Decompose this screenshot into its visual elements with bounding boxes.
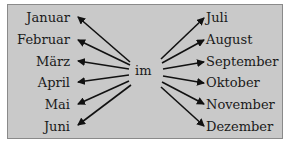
month-april: April: [8, 75, 70, 91]
arrow-februar: [78, 40, 130, 65]
month-august: August: [206, 32, 252, 48]
arrow-oktober: [163, 76, 204, 83]
arrow-juni: [78, 85, 131, 125]
month-maerz: März: [8, 54, 70, 70]
arrow-maerz: [78, 61, 129, 69]
month-september: September: [206, 54, 278, 70]
month-november: November: [206, 97, 275, 113]
arrow-april: [78, 75, 129, 82]
month-juli: Juli: [206, 10, 228, 26]
month-oktober: Oktober: [206, 75, 260, 91]
month-februar: Februar: [8, 32, 70, 48]
month-juni: Juni: [8, 119, 70, 135]
month-mai: Mai: [8, 97, 70, 113]
month-dezember: Dezember: [206, 119, 273, 135]
month-januar: Januar: [8, 10, 70, 26]
arrow-juli: [161, 18, 204, 59]
arrow-september: [163, 62, 204, 69]
center-label: im: [135, 63, 152, 79]
arrow-januar: [78, 17, 130, 62]
